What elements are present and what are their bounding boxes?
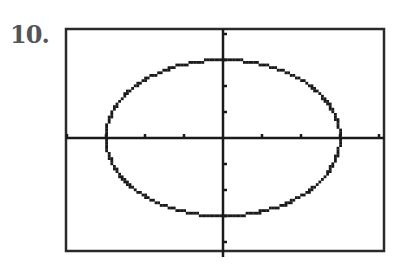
axes xyxy=(66,29,384,257)
graph-screen xyxy=(0,0,395,266)
graph-frame xyxy=(66,29,384,251)
